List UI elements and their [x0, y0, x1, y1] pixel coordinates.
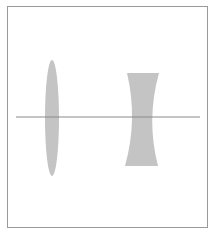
convex-lens: [45, 60, 59, 176]
lens-diagram: [0, 0, 213, 234]
concave-lens: [125, 73, 159, 166]
